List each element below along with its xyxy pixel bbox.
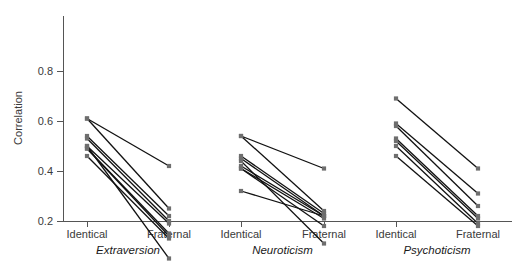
correlation-line-chart: 0.20.40.60.8 IdenticalFraternalIdentical… — [0, 0, 518, 267]
series-line — [87, 119, 169, 167]
data-point-marker — [476, 204, 480, 208]
y-axis: 0.20.40.60.8 — [38, 16, 63, 227]
data-point-marker — [167, 206, 171, 210]
data-point-marker — [85, 154, 89, 158]
y-tick-label: 0.2 — [38, 215, 53, 227]
series-group — [85, 96, 480, 260]
series-line — [87, 136, 169, 216]
data-point-marker — [476, 191, 480, 195]
data-point-marker — [394, 139, 398, 143]
y-tick-label: 0.6 — [38, 115, 53, 127]
y-tick-group: 0.20.40.60.8 — [38, 65, 63, 227]
x-tick-label: Fraternal — [302, 228, 346, 240]
series-line — [241, 169, 324, 227]
data-point-marker — [322, 214, 326, 218]
x-tick-label: Identical — [221, 228, 262, 240]
data-point-marker — [239, 134, 243, 138]
panel-title-psychoticism: Psychoticism — [403, 244, 471, 256]
data-point-marker — [394, 154, 398, 158]
data-point-marker — [85, 116, 89, 120]
data-point-marker — [394, 144, 398, 148]
y-axis-title: Correlation — [12, 91, 24, 145]
data-point-marker — [476, 224, 480, 228]
series-line — [241, 169, 324, 219]
data-point-marker — [167, 214, 171, 218]
panel-series-psychoticism — [394, 96, 480, 228]
data-point-marker — [239, 166, 243, 170]
y-tick-label: 0.4 — [38, 165, 53, 177]
data-point-marker — [167, 236, 171, 240]
x-tick-label: Identical — [67, 228, 108, 240]
data-point-marker — [322, 241, 326, 245]
panel-title-neuroticism: Neuroticism — [252, 244, 313, 256]
data-point-marker — [322, 224, 326, 228]
series-line — [241, 136, 324, 169]
x-axis: IdenticalFraternalIdenticalFraternalIden… — [63, 221, 512, 240]
data-point-marker — [322, 166, 326, 170]
data-point-marker — [394, 96, 398, 100]
series-line — [87, 146, 169, 224]
series-line — [241, 156, 324, 214]
chart-container: 0.20.40.60.8 IdenticalFraternalIdentical… — [0, 0, 518, 267]
data-point-marker — [85, 144, 89, 148]
data-point-marker — [85, 136, 89, 140]
data-point-marker — [167, 256, 171, 260]
series-line — [241, 191, 324, 216]
data-point-marker — [239, 189, 243, 193]
data-point-marker — [476, 166, 480, 170]
x-tick-label: Fraternal — [456, 228, 500, 240]
panel-title-extraversion: Extraversion — [96, 244, 160, 256]
data-point-marker — [167, 164, 171, 168]
series-line — [87, 139, 169, 222]
series-line — [241, 159, 324, 217]
series-line — [87, 149, 169, 237]
y-tick-label: 0.8 — [38, 65, 53, 77]
data-point-marker — [167, 221, 171, 225]
panel-label-group: ExtraversionNeuroticismPsychoticism — [96, 244, 471, 256]
series-line — [87, 156, 169, 239]
x-tick-group: IdenticalFraternalIdenticalFraternalIden… — [67, 221, 501, 240]
data-point-marker — [239, 159, 243, 163]
series-line — [396, 139, 478, 217]
x-tick-label: Identical — [376, 228, 417, 240]
data-point-marker — [394, 124, 398, 128]
data-point-marker — [476, 216, 480, 220]
series-line — [396, 141, 478, 219]
